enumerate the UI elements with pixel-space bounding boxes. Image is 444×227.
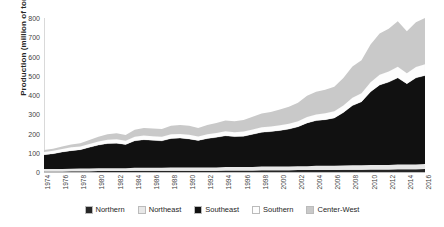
x-tick-label: 1980 [98, 175, 105, 189]
chart-legend: NorthernNortheastSoutheastSouthernCenter… [0, 205, 444, 214]
y-tick-label: 600 [16, 53, 40, 60]
x-tick-label: 2016 [425, 175, 432, 189]
x-tick-label: 2010 [371, 175, 378, 189]
y-tick-label: 700 [16, 34, 40, 41]
x-tick-label: 1992 [207, 175, 214, 189]
x-tick-label: 1990 [189, 175, 196, 189]
x-tick-label: 2000 [280, 175, 287, 189]
legend-label: Southeast [205, 205, 239, 214]
y-tick-label: 200 [16, 130, 40, 137]
legend-swatch-icon [306, 206, 314, 214]
legend-item-center-west[interactable]: Center-West [306, 205, 359, 214]
legend-label: Northeast [149, 205, 182, 214]
area-series-svg [44, 18, 425, 172]
y-tick-label: 800 [16, 15, 40, 22]
legend-swatch-icon [85, 206, 93, 214]
legend-label: Center-West [317, 205, 359, 214]
x-tick-label: 1984 [135, 175, 142, 189]
x-tick-label: 2008 [352, 175, 359, 189]
legend-swatch-icon [252, 206, 260, 214]
legend-item-northern[interactable]: Northern [85, 205, 125, 214]
stacked-area-chart: Production (million of ton) 800700600500… [0, 0, 444, 227]
legend-swatch-icon [138, 206, 146, 214]
x-tick-label: 1988 [171, 175, 178, 189]
legend-swatch-icon [194, 206, 202, 214]
y-tick-label: 400 [16, 92, 40, 99]
x-tick-label: 1976 [62, 175, 69, 189]
legend-label: Northern [96, 205, 125, 214]
y-tick-label: 500 [16, 72, 40, 79]
x-axis-tick-labels: 1974197619781980198219841986198819901992… [44, 173, 425, 197]
y-tick-label: 0 [16, 169, 40, 176]
legend-item-southeast[interactable]: Southeast [194, 205, 239, 214]
legend-item-southern[interactable]: Southern [252, 205, 293, 214]
y-axis-tick-labels: 8007006005004003002001000 [14, 18, 40, 172]
y-tick-label: 300 [16, 111, 40, 118]
x-tick-label: 1986 [153, 175, 160, 189]
x-tick-label: 2012 [389, 175, 396, 189]
x-tick-label: 2002 [298, 175, 305, 189]
x-tick-label: 1978 [80, 175, 87, 189]
legend-item-northeast[interactable]: Northeast [138, 205, 182, 214]
plot-area [44, 18, 425, 172]
x-tick-label: 1996 [244, 175, 251, 189]
x-tick-label: 2004 [316, 175, 323, 189]
x-tick-label: 2006 [334, 175, 341, 189]
x-tick-label: 1998 [262, 175, 269, 189]
x-tick-label: 2014 [407, 175, 414, 189]
x-tick-label: 1974 [44, 175, 51, 189]
x-tick-label: 1982 [117, 175, 124, 189]
legend-label: Southern [263, 205, 293, 214]
y-tick-label: 100 [16, 149, 40, 156]
x-tick-label: 1994 [225, 175, 232, 189]
